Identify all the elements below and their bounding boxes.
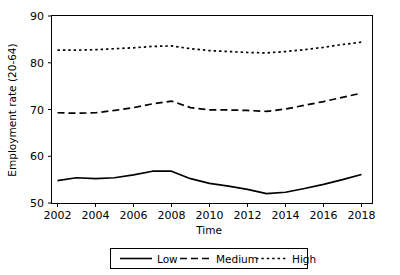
line-chart: Employment rate (20-64) 90 80 70 60 50 bbox=[0, 0, 400, 275]
x-axis-label: Time bbox=[195, 224, 222, 236]
legend-label-medium: Medium bbox=[216, 253, 258, 265]
x-tick-label: 2018 bbox=[348, 209, 376, 222]
y-tick-label: 50 bbox=[30, 197, 44, 210]
x-tick-label: 2002 bbox=[44, 209, 72, 222]
series-line-medium bbox=[58, 93, 362, 113]
legend-label-high: High bbox=[292, 253, 316, 265]
y-axis-ticks bbox=[48, 16, 52, 203]
x-tick-label: 2010 bbox=[196, 209, 224, 222]
y-tick-label: 80 bbox=[30, 57, 44, 70]
x-tick-label: 2014 bbox=[272, 209, 300, 222]
y-axis-tick-labels: 90 80 70 60 50 bbox=[30, 10, 44, 210]
y-tick-label: 90 bbox=[30, 10, 44, 23]
x-tick-label: 2006 bbox=[120, 209, 148, 222]
y-tick-label: 60 bbox=[30, 150, 44, 163]
series-line-high bbox=[58, 42, 362, 53]
x-tick-label: 2008 bbox=[158, 209, 186, 222]
x-tick-label: 2016 bbox=[310, 209, 338, 222]
x-tick-label: 2012 bbox=[234, 209, 262, 222]
legend: Low Medium High bbox=[111, 249, 317, 269]
series-line-low bbox=[58, 171, 362, 193]
x-tick-label: 2004 bbox=[82, 209, 110, 222]
chart-figure: Employment rate (20-64) 90 80 70 60 50 bbox=[0, 0, 400, 275]
x-axis-ticks bbox=[58, 204, 362, 208]
legend-label-low: Low bbox=[157, 253, 178, 265]
y-axis-label: Employment rate (20-64) bbox=[6, 43, 18, 176]
x-axis-tick-labels: 2002 2004 2006 2008 2010 2012 2014 2016 … bbox=[44, 209, 376, 222]
series-group bbox=[58, 42, 362, 193]
y-tick-label: 70 bbox=[30, 104, 44, 117]
